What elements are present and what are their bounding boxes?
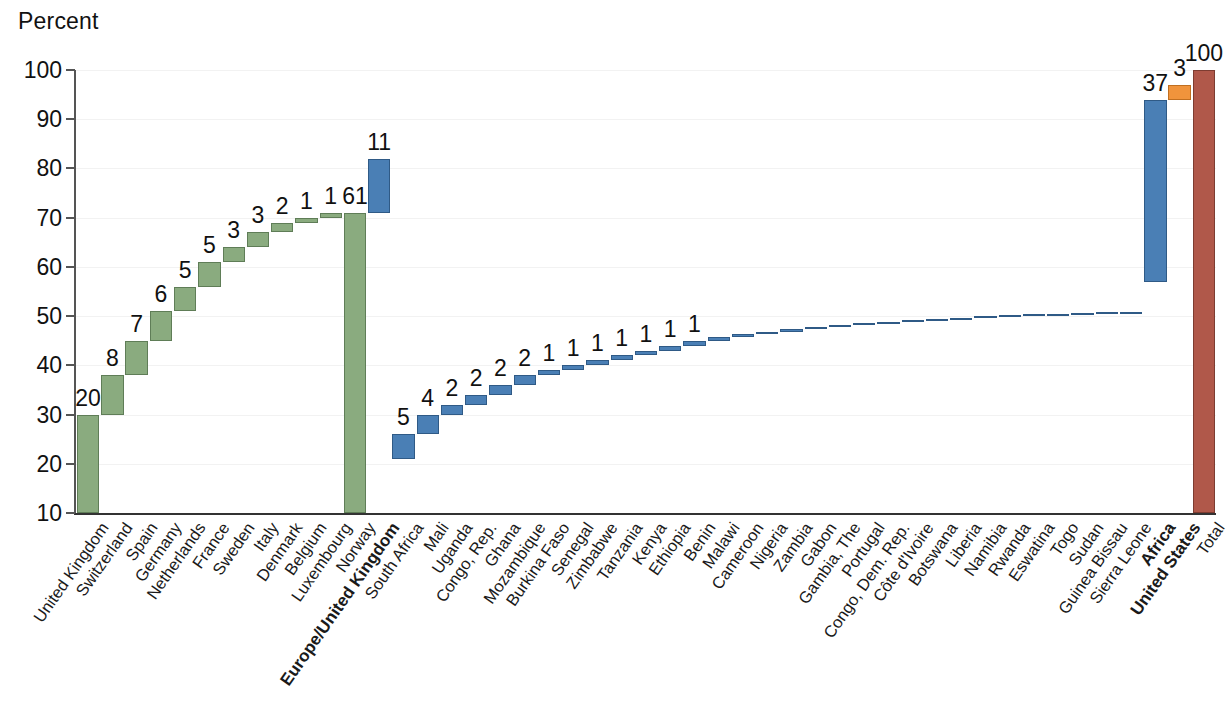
bar-value-label: 3	[227, 217, 240, 244]
bar	[320, 213, 342, 218]
bar	[441, 405, 463, 415]
bar	[538, 370, 560, 375]
x-axis-line	[74, 513, 1216, 515]
y-tick-mark	[66, 512, 75, 514]
bar-value-label: 1	[664, 316, 677, 343]
y-tick-label: 90	[8, 106, 62, 133]
bar-value-label: 4	[421, 385, 434, 412]
bar-value-label: 2	[276, 193, 289, 220]
bar-value-label: 3	[252, 202, 265, 229]
bar-value-label: 1	[567, 335, 580, 362]
gridline	[76, 70, 1216, 71]
y-tick-label: 70	[8, 204, 62, 231]
bar	[756, 332, 778, 334]
bar	[611, 355, 633, 360]
bar	[780, 329, 802, 331]
bar	[635, 351, 657, 356]
bar	[683, 341, 705, 346]
bar	[247, 232, 269, 247]
bar-value-label: 5	[179, 257, 192, 284]
y-axis-title: Percent	[18, 8, 99, 35]
y-tick-label: 60	[8, 253, 62, 280]
bar	[562, 365, 584, 370]
bar-value-label: 5	[397, 404, 410, 431]
bar-value-label: 5	[203, 232, 216, 259]
bar-value-label: 6	[154, 281, 167, 308]
bar	[344, 213, 366, 513]
bar-value-label: 2	[518, 345, 531, 372]
gridline	[76, 464, 1216, 465]
bar	[368, 159, 390, 213]
y-tick-mark	[66, 414, 75, 416]
bar-value-label: 1	[300, 188, 313, 215]
bar	[101, 375, 123, 414]
gridline	[76, 119, 1216, 120]
bar-value-label: 61	[342, 183, 368, 210]
bar	[974, 316, 996, 318]
bar-value-label: 1	[543, 340, 556, 367]
y-tick-mark	[66, 266, 75, 268]
bar	[417, 415, 439, 435]
bar	[950, 318, 972, 320]
bar-value-label: 11	[367, 129, 391, 156]
bar-value-label: 1	[591, 330, 604, 357]
waterfall-chart: Percent 102030405060708090100 2087655332…	[0, 0, 1226, 726]
bar	[514, 375, 536, 385]
bar	[853, 323, 875, 325]
bar	[1047, 314, 1069, 316]
bar	[659, 346, 681, 351]
bar	[1071, 313, 1093, 315]
bar	[1023, 314, 1045, 316]
y-tick-label: 50	[8, 303, 62, 330]
bar	[295, 218, 317, 223]
y-tick-mark	[66, 118, 75, 120]
bar	[465, 395, 487, 405]
y-tick-mark	[66, 315, 75, 317]
bar	[1144, 100, 1166, 282]
bar	[999, 315, 1021, 317]
bar-value-label: 20	[75, 385, 101, 412]
gridline	[76, 365, 1216, 366]
bar-value-label: 2	[446, 375, 459, 402]
bar	[829, 325, 851, 327]
bar	[1193, 70, 1215, 513]
gridline	[76, 267, 1216, 268]
bar	[271, 223, 293, 233]
bar	[150, 311, 172, 341]
bar-value-label: 2	[470, 365, 483, 392]
bar	[223, 247, 245, 262]
bar-value-label: 1	[324, 183, 337, 210]
y-tick-label: 80	[8, 155, 62, 182]
y-tick-mark	[66, 69, 75, 71]
bar-value-label: 1	[640, 321, 653, 348]
gridline	[76, 168, 1216, 169]
bar	[1120, 312, 1142, 314]
bar-value-label: 100	[1185, 40, 1223, 67]
y-tick-label: 30	[8, 401, 62, 428]
y-tick-label: 40	[8, 352, 62, 379]
bar	[198, 262, 220, 287]
y-tick-mark	[66, 217, 75, 219]
bar	[1168, 85, 1190, 100]
y-tick-label: 20	[8, 450, 62, 477]
bar	[125, 341, 147, 375]
bar-value-label: 37	[1143, 70, 1169, 97]
bar	[732, 334, 754, 337]
y-tick-label: 100	[8, 57, 62, 84]
bar	[902, 320, 924, 322]
bar	[489, 385, 511, 395]
gridline	[76, 415, 1216, 416]
y-tick-label: 10	[8, 500, 62, 527]
bar-value-label: 2	[494, 355, 507, 382]
y-tick-mark	[66, 364, 75, 366]
bar	[926, 319, 948, 321]
bar	[1096, 312, 1118, 314]
bar-value-label: 8	[106, 345, 119, 372]
gridline	[76, 218, 1216, 219]
bar-value-label: 7	[130, 311, 143, 338]
bar-value-label: 1	[688, 311, 701, 338]
bar-value-label: 1	[615, 325, 628, 352]
bar	[708, 337, 730, 340]
bar	[392, 434, 414, 459]
bar	[174, 287, 196, 312]
